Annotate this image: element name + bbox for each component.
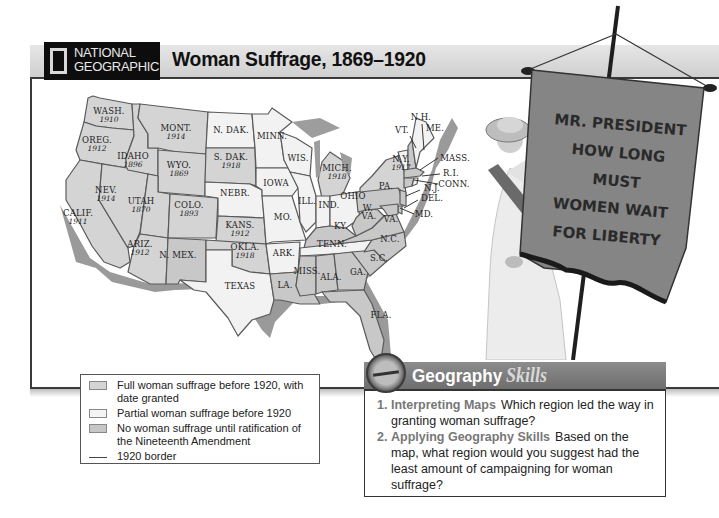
question-number: 2.	[377, 429, 391, 493]
border-line-icon	[89, 457, 107, 458]
svg-text:KY.: KY.	[334, 221, 348, 231]
svg-text:N. DAK.: N. DAK.	[213, 125, 249, 135]
lake-superior	[292, 118, 340, 138]
svg-text:MASS.: MASS.	[440, 153, 470, 163]
svg-text:CONN.: CONN.	[438, 179, 470, 189]
svg-text:TENN.: TENN.	[317, 239, 347, 249]
svg-text:S.C.: S.C.	[370, 253, 388, 263]
svg-text:MD.: MD.	[415, 209, 434, 219]
svg-text:1893: 1893	[179, 209, 198, 218]
svg-text:MO.: MO.	[274, 212, 292, 222]
svg-text:1911: 1911	[68, 217, 87, 226]
svg-text:ILL.: ILL.	[298, 196, 316, 206]
legend-item-full: Full woman suffrage before 1920, with da…	[87, 379, 313, 405]
national-geographic-logo: NATIONAL GEOGRAPHIC	[44, 42, 160, 80]
svg-text:1912: 1912	[230, 229, 249, 238]
svg-text:1869: 1869	[169, 169, 188, 178]
svg-text:N. MEX.: N. MEX.	[159, 250, 196, 260]
svg-text:ALA.: ALA.	[319, 272, 341, 282]
compass-needle	[373, 370, 399, 377]
swatch-partial-icon	[89, 409, 107, 418]
logo-line-2: GEOGRAPHIC	[74, 60, 159, 74]
svg-text:R.I.: R.I.	[443, 168, 459, 178]
svg-text:FLA.: FLA.	[370, 310, 391, 320]
svg-text:IOWA: IOWA	[263, 178, 289, 188]
svg-text:N.H.: N.H.	[411, 112, 432, 122]
svg-text:MINN.: MINN.	[257, 131, 287, 141]
legend-label: Partial woman suffrage before 1920	[117, 407, 291, 420]
svg-text:N.J.: N.J.	[424, 183, 440, 193]
svg-text:1896: 1896	[123, 160, 142, 169]
swatch-none-icon	[89, 424, 107, 433]
skills-title-main: Geography	[412, 365, 502, 386]
svg-text:LA.: LA.	[277, 280, 292, 290]
logo-line-1: NATIONAL	[74, 46, 159, 60]
swatch-full-icon	[89, 381, 107, 390]
logo-text: NATIONAL GEOGRAPHIC	[74, 46, 159, 74]
svg-text:PA.: PA.	[379, 181, 393, 191]
svg-text:MISS.: MISS.	[294, 266, 321, 276]
svg-text:VT.: VT.	[394, 125, 409, 135]
skills-title: GeographySkills	[412, 364, 547, 387]
legend-item-partial: Partial woman suffrage before 1920	[87, 407, 313, 420]
state-nj[interactable]	[400, 190, 406, 206]
question-2: 2. Applying Geography SkillsBased on the…	[377, 429, 655, 493]
svg-text:N.C.: N.C.	[380, 234, 399, 244]
yellow-border-icon	[50, 48, 67, 74]
legend-label: 1920 border	[117, 450, 176, 463]
svg-text:WIS.: WIS.	[287, 153, 308, 163]
question-number: 1.	[377, 397, 391, 429]
svg-text:1918: 1918	[221, 161, 240, 170]
state-nmex[interactable]	[166, 238, 206, 284]
legend-item-border: 1920 border	[87, 450, 313, 463]
question-heading: Applying Geography Skills	[391, 430, 550, 444]
svg-text:1870: 1870	[131, 205, 150, 214]
svg-text:VA.: VA.	[360, 211, 376, 221]
lake-michigan	[314, 140, 320, 178]
svg-text:GA.: GA.	[350, 267, 366, 277]
skills-questions: 1. Interpreting MapsWhich region led the…	[364, 391, 666, 497]
legend-label: Full woman suffrage before 1920, with da…	[117, 379, 313, 405]
svg-text:1914: 1914	[96, 194, 115, 203]
svg-text:1918: 1918	[327, 172, 346, 181]
svg-text:1912: 1912	[87, 144, 106, 153]
state-miss[interactable]	[296, 256, 316, 296]
svg-text:1918: 1918	[235, 251, 254, 260]
skills-title-accent: Skills	[506, 364, 547, 386]
legend-label: No woman suffrage until ratification of …	[117, 422, 313, 448]
svg-text:1912: 1912	[130, 248, 149, 257]
svg-text:OHIO: OHIO	[340, 191, 366, 201]
svg-text:DEL.: DEL.	[421, 193, 443, 203]
question-heading: Interpreting Maps	[391, 398, 496, 412]
svg-text:VA.: VA.	[382, 214, 398, 224]
map-legend: Full woman suffrage before 1920, with da…	[80, 374, 320, 464]
svg-text:IND.: IND.	[319, 200, 340, 210]
svg-text:1910: 1910	[99, 115, 118, 124]
svg-text:ARK.: ARK.	[272, 248, 295, 258]
svg-text:1914: 1914	[166, 132, 185, 141]
compass-icon	[366, 353, 406, 393]
suffragist-photo: MR. PRESIDENT HOW LONG MUST WOMEN WAIT F…	[470, 0, 719, 360]
svg-text:ME.: ME.	[426, 123, 444, 133]
map-title: Woman Suffrage, 1869–1920	[172, 47, 426, 71]
svg-text:1917: 1917	[391, 163, 410, 172]
question-1: 1. Interpreting MapsWhich region led the…	[377, 397, 655, 429]
svg-text:NEBR.: NEBR.	[220, 188, 250, 198]
svg-text:TEXAS: TEXAS	[225, 281, 256, 291]
legend-item-none: No woman suffrage until ratification of …	[87, 422, 313, 448]
